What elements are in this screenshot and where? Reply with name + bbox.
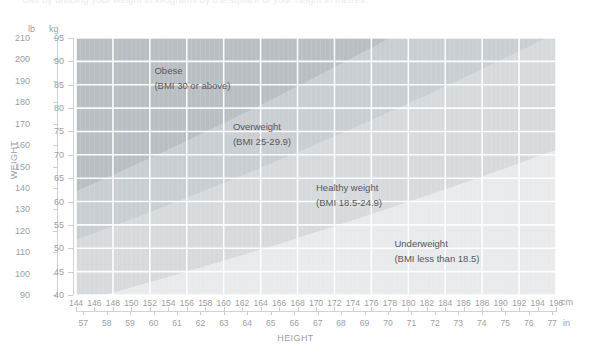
y-tick-label-kg: 80	[54, 103, 64, 113]
y-tick-label-lb: 150	[15, 162, 30, 172]
x-tick-label-in: 66	[289, 318, 298, 328]
y-tick-mark-kg	[68, 61, 73, 62]
x-tick-label-in: 68	[336, 318, 345, 328]
x-tick-mark-cm	[205, 307, 206, 311]
x-tick-mark-in	[529, 311, 530, 315]
x-tick-mark-in	[271, 311, 272, 315]
x-tick-mark-in	[388, 311, 389, 315]
y-tick-mark-kg	[68, 248, 73, 249]
x-tick-label-in: 59	[125, 318, 134, 328]
x-tick-label-in: 60	[149, 318, 158, 328]
x-tick-mark-in	[154, 311, 155, 315]
x-tick-mark-in	[247, 311, 248, 315]
x-tick-mark-cm	[556, 307, 557, 311]
x-tick-mark-in	[458, 311, 459, 315]
intro-text: BMI by dividing your weight in kilograms…	[22, 0, 582, 5]
zone-label-overweight: Overweight (BMI 25-29.9)	[233, 119, 291, 149]
y-tick-mark-kg	[68, 155, 73, 156]
zone-label-healthy-weight-sub: (BMI 18.5-24.9)	[316, 195, 382, 210]
y-tick-label-lb: 140	[15, 183, 30, 193]
x-tick-mark-cm	[298, 307, 299, 311]
y-tick-mark-kg	[68, 38, 73, 39]
x-tick-label-in: 72	[430, 318, 439, 328]
x-tick-mark-cm	[501, 307, 502, 311]
y-tick-mark-lb	[53, 145, 57, 146]
y-tick-label-lb: 100	[15, 269, 30, 279]
x-tick-mark-cm	[150, 307, 151, 311]
x-tick-mark-in	[411, 311, 412, 315]
x-tick-mark-cm	[334, 307, 335, 311]
x-tick-label-in: 77	[547, 318, 556, 328]
y-tick-label-lb: 210	[15, 33, 30, 43]
y-tick-label-kg: 50	[54, 243, 64, 253]
x-tick-mark-in	[83, 311, 84, 315]
y-tick-mark-kg	[68, 202, 73, 203]
x-tick-mark-in	[294, 311, 295, 315]
x-tick-mark-in	[365, 311, 366, 315]
x-tick-mark-in	[318, 311, 319, 315]
x-tick-mark-cm	[538, 307, 539, 311]
x-tick-mark-in	[552, 311, 553, 315]
y-tick-label-lb: 200	[15, 54, 30, 64]
x-tick-mark-cm	[427, 307, 428, 311]
x-tick-mark-in	[200, 311, 201, 315]
zone-label-underweight-title: Underweight	[394, 238, 447, 249]
x-tick-mark-cm	[279, 307, 280, 311]
x-axis-labels-in: 5758596061626364656667686970717273747576…	[0, 318, 591, 330]
y-tick-label-lb: 120	[15, 226, 30, 236]
y-tick-label-lb: 130	[15, 204, 30, 214]
y-tick-label-kg: 85	[54, 80, 64, 90]
y-tick-mark-kg	[68, 85, 73, 86]
y-tick-mark-kg	[68, 178, 73, 179]
x-tick-mark-in	[177, 311, 178, 315]
x-tick-mark-cm	[445, 307, 446, 311]
zone-label-healthy-weight: Healthy weight (BMI 18.5-24.9)	[316, 180, 382, 210]
x-tick-label-in: 69	[360, 318, 369, 328]
y-tick-mark-lb	[53, 124, 57, 125]
x-tick-mark-in	[482, 311, 483, 315]
x-tick-mark-cm	[371, 307, 372, 311]
zone-label-overweight-title: Overweight	[233, 121, 281, 132]
x-tick-mark-in	[130, 311, 131, 315]
y-tick-label-lb: 160	[15, 140, 30, 150]
x-tick-mark-in	[435, 311, 436, 315]
y-tick-mark-lb	[53, 209, 57, 210]
y-tick-mark-kg	[68, 131, 73, 132]
x-tick-label-in: 70	[383, 318, 392, 328]
y-tick-mark-lb	[53, 188, 57, 189]
x-tick-label-in: 73	[454, 318, 463, 328]
zone-label-obese: Obese (BMI 30 or above)	[154, 63, 230, 93]
y-tick-label-kg: 70	[54, 150, 64, 160]
y-tick-label-kg: 95	[54, 33, 64, 43]
x-tick-mark-in	[107, 311, 108, 315]
x-tick-mark-cm	[168, 307, 169, 311]
y-tick-label-kg: 65	[54, 173, 64, 183]
y-tick-mark-kg	[68, 108, 73, 109]
x-tick-mark-cm	[261, 307, 262, 311]
y-tick-mark-kg	[68, 295, 73, 296]
x-tick-mark-cm	[76, 307, 77, 311]
x-tick-label-in: 74	[477, 318, 486, 328]
y-tick-label-kg: 55	[54, 220, 64, 230]
y-tick-label-kg: 45	[54, 267, 64, 277]
x-tick-mark-cm	[242, 307, 243, 311]
x-axis-title: HEIGHT	[0, 333, 591, 343]
x-tick-label-in: 61	[172, 318, 181, 328]
y-tick-label-lb: 110	[16, 247, 30, 257]
x-tick-mark-cm	[464, 307, 465, 311]
plot-area	[76, 38, 556, 295]
x-tick-mark-cm	[187, 307, 188, 311]
x-tick-mark-cm	[390, 307, 391, 311]
x-tick-mark-in	[505, 311, 506, 315]
zone-label-obese-sub: (BMI 30 or above)	[154, 78, 230, 93]
zone-label-underweight-sub: (BMI less than 18.5)	[394, 251, 479, 266]
bmi-bands-svg	[76, 38, 556, 295]
zone-label-underweight: Underweight (BMI less than 18.5)	[394, 236, 479, 266]
zone-label-overweight-sub: (BMI 25-29.9)	[233, 134, 291, 149]
x-tick-label-in: 57	[78, 318, 87, 328]
y-tick-mark-lb	[53, 167, 57, 168]
x-tick-mark-cm	[408, 307, 409, 311]
x-axis-labels-cm: 1441461481501521541561581601621641661681…	[0, 298, 591, 310]
x-tick-mark-cm	[353, 307, 354, 311]
y-tick-label-lb: 190	[15, 76, 30, 86]
